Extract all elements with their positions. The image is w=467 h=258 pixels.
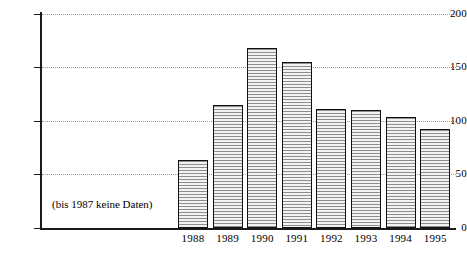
bar-rect-1991[interactable] (282, 62, 312, 228)
bar-rect-1988[interactable] (178, 160, 208, 228)
bar-1991[interactable] (282, 62, 312, 228)
bar-1994[interactable] (386, 117, 416, 228)
bar-series: 19881989199019911992199319941995 (0, 0, 467, 258)
bar-1993[interactable] (351, 110, 381, 228)
xtick-label-1992: 1992 (312, 232, 350, 244)
bar-rect-1990[interactable] (247, 48, 277, 228)
bar-rect-1993[interactable] (351, 110, 381, 228)
bar-rect-1989[interactable] (213, 105, 243, 228)
bar-rect-1992[interactable] (316, 109, 346, 228)
xtick-label-1993: 1993 (347, 232, 385, 244)
bar-1989[interactable] (213, 105, 243, 228)
bar-1992[interactable] (316, 109, 346, 228)
xtick-label-1988: 1988 (174, 232, 212, 244)
xtick-label-1989: 1989 (209, 232, 247, 244)
bar-rect-1995[interactable] (420, 129, 450, 229)
xtick-label-1990: 1990 (243, 232, 281, 244)
bar-1988[interactable] (178, 160, 208, 228)
bar-1995[interactable] (420, 129, 450, 229)
bar-rect-1994[interactable] (386, 117, 416, 228)
xtick-label-1991: 1991 (278, 232, 316, 244)
xtick-label-1994: 1994 (382, 232, 420, 244)
bar-chart: 200 150 100 50 0 (bis 1987 keine Daten) … (0, 0, 467, 258)
plot-area: 200 150 100 50 0 (bis 1987 keine Daten) … (0, 0, 467, 258)
xtick-label-1995: 1995 (416, 232, 454, 244)
bar-1990[interactable] (247, 48, 277, 228)
